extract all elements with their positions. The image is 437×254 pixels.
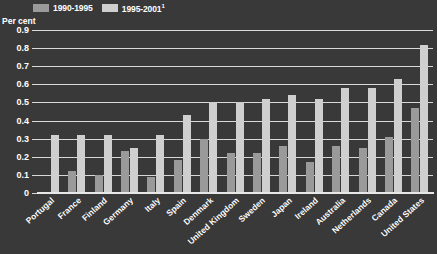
y-tick-label: 0 xyxy=(24,189,29,198)
bar-group xyxy=(116,30,142,193)
x-label-cell: United States xyxy=(407,194,433,254)
bar xyxy=(359,148,367,193)
x-label-cell: Italy xyxy=(143,194,169,254)
y-tick-label: 0.3 xyxy=(16,135,29,144)
chart-legend: 1990-1995 1995-20011 xyxy=(33,2,165,14)
bar xyxy=(77,135,85,193)
x-label-cell: Netherlands xyxy=(354,194,380,254)
bar xyxy=(236,102,244,193)
x-label-cell: Germany xyxy=(116,194,142,254)
bar-group xyxy=(301,30,327,193)
bar xyxy=(253,153,261,193)
bar-group xyxy=(275,30,301,193)
bar xyxy=(332,146,340,193)
bar-group xyxy=(37,30,63,193)
x-tick-label: Portugal xyxy=(25,196,57,226)
x-label-cell: Portugal xyxy=(37,194,63,254)
bar xyxy=(200,139,208,193)
bar xyxy=(104,135,112,193)
bar xyxy=(95,175,103,193)
legend-swatch-1990-1995 xyxy=(33,4,49,12)
bar xyxy=(209,102,217,193)
bar xyxy=(262,99,270,193)
bar xyxy=(385,137,393,193)
x-label-cell: Japan xyxy=(275,194,301,254)
y-tick-label: 0.2 xyxy=(16,153,29,162)
bar-group xyxy=(327,30,353,193)
y-tick-label: 0.7 xyxy=(16,62,29,71)
bar-group xyxy=(380,30,406,193)
bar xyxy=(174,160,182,193)
x-tick-label: Italy xyxy=(143,196,162,214)
bar xyxy=(420,45,428,194)
x-label-cell: France xyxy=(63,194,89,254)
bar xyxy=(147,177,155,193)
bar xyxy=(341,88,349,193)
bar-group xyxy=(354,30,380,193)
bar xyxy=(394,79,402,193)
bar-group xyxy=(63,30,89,193)
bar xyxy=(227,153,235,193)
legend-item-1995-2001: 1995-20011 xyxy=(102,2,165,14)
x-label-cell: Ireland xyxy=(301,194,327,254)
legend-footnote-marker: 1 xyxy=(162,3,165,9)
bar-group xyxy=(222,30,248,193)
plot-area xyxy=(37,30,433,193)
bar xyxy=(306,162,314,193)
bar-group xyxy=(169,30,195,193)
bar xyxy=(68,171,76,193)
bar xyxy=(51,135,59,193)
x-label-cell: United Kingdom xyxy=(222,194,248,254)
legend-swatch-1995-2001 xyxy=(102,4,118,12)
bar xyxy=(130,148,138,193)
legend-text-1995-2001: 1995-2001 xyxy=(122,4,162,14)
y-tick-label: 0.1 xyxy=(16,171,29,180)
bar xyxy=(315,99,323,193)
y-axis: 0.90.80.70.60.50.40.30.20.10 xyxy=(0,30,37,193)
y-tick-label: 0.4 xyxy=(16,117,29,126)
legend-label-1990-1995: 1990-1995 xyxy=(53,4,93,13)
bar-group xyxy=(195,30,221,193)
bar xyxy=(411,108,419,193)
bar-group xyxy=(143,30,169,193)
bar-group xyxy=(248,30,274,193)
y-tick-label: 0.6 xyxy=(16,80,29,89)
x-axis-labels: PortugalFranceFinlandGermanyItalySpainDe… xyxy=(37,194,433,254)
x-label-cell: Sweden xyxy=(248,194,274,254)
bar xyxy=(279,146,287,193)
legend-item-1990-1995: 1990-1995 xyxy=(33,4,93,13)
bar xyxy=(183,115,191,193)
bar-group xyxy=(90,30,116,193)
y-tick-label: 0.9 xyxy=(16,26,29,35)
bar xyxy=(368,88,376,193)
x-label-cell: Finland xyxy=(90,194,116,254)
bar xyxy=(121,151,129,193)
y-tick-label: 0.8 xyxy=(16,44,29,53)
legend-label-1995-2001: 1995-20011 xyxy=(122,2,165,14)
y-tick-label: 0.5 xyxy=(16,98,29,107)
bar-group xyxy=(407,30,433,193)
bar xyxy=(288,95,296,193)
bar-series-container xyxy=(37,30,433,193)
legend-text-1990-1995: 1990-1995 xyxy=(53,3,93,13)
bar xyxy=(156,135,164,193)
